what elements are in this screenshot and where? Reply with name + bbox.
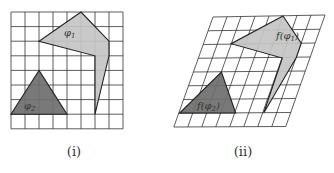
panel-i: φ1 φ2 bbox=[11, 12, 123, 129]
caption-ii: (ii) bbox=[234, 144, 252, 159]
panel-ii: f(φ1) f(φ2) bbox=[174, 15, 325, 127]
figure: φ1 φ2 f(φ1) f(φ2) bbox=[0, 0, 334, 173]
phi2-shape bbox=[11, 70, 67, 114]
caption-i: (i) bbox=[67, 144, 81, 159]
